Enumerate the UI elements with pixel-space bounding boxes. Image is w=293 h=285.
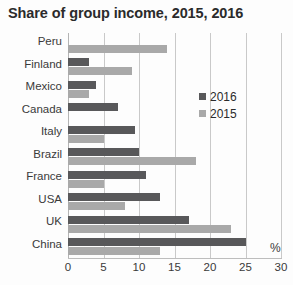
category-row: UK <box>68 213 281 236</box>
category-row: China <box>68 236 281 259</box>
bar-2016 <box>68 171 146 179</box>
x-axis-baseline <box>68 258 282 259</box>
category-label: Mexico <box>26 80 62 92</box>
category-label: USA <box>38 193 62 205</box>
legend-swatch-2015-icon <box>199 110 206 117</box>
x-tick-label: 0 <box>65 261 71 273</box>
x-tick-label: 30 <box>275 261 288 273</box>
bar-2016 <box>68 148 139 156</box>
category-label: Finland <box>24 58 62 70</box>
category-row: Italy <box>68 123 281 146</box>
category-label: Canada <box>22 103 62 115</box>
legend-label-2015: 2015 <box>210 107 237 121</box>
gridline <box>281 33 282 258</box>
x-tick-label: 25 <box>239 261 252 273</box>
category-row: Canada <box>68 101 281 124</box>
category-row: Finland <box>68 56 281 79</box>
legend-entry-2015: 2015 <box>199 105 237 122</box>
bar-2015 <box>68 225 231 233</box>
bar-2015 <box>68 202 125 210</box>
category-label: Brazil <box>33 148 62 160</box>
category-row: Mexico <box>68 78 281 101</box>
bar-2016 <box>68 126 135 134</box>
category-row: France <box>68 168 281 191</box>
plot-area: PeruFinlandMexicoCanadaItalyBrazilFrance… <box>68 33 281 258</box>
bar-2015 <box>68 135 104 143</box>
legend-label-2016: 2016 <box>210 90 237 104</box>
x-axis-tick-labels: 051015202530 <box>68 261 281 279</box>
bar-2015 <box>68 45 167 53</box>
legend-swatch-2016-icon <box>199 93 206 100</box>
bar-2016 <box>68 193 160 201</box>
bar-2016 <box>68 81 96 89</box>
x-tick-label: 5 <box>100 261 106 273</box>
legend-entry-2016: 2016 <box>199 88 237 105</box>
chart-title: Share of group income, 2015, 2016 <box>8 5 243 21</box>
x-tick-label: 15 <box>168 261 181 273</box>
bar-2015 <box>68 90 89 98</box>
category-row: Brazil <box>68 146 281 169</box>
bar-2016 <box>68 216 189 224</box>
bar-2016 <box>68 58 89 66</box>
bar-chart-figure: Share of group income, 2015, 2016 PeruFi… <box>0 0 293 285</box>
bar-2015 <box>68 247 160 255</box>
category-row: Peru <box>68 33 281 56</box>
x-axis-unit-label: % <box>270 241 281 255</box>
category-label: Peru <box>38 35 62 47</box>
category-label: China <box>32 238 62 250</box>
category-label: France <box>26 170 62 182</box>
bar-2015 <box>68 180 104 188</box>
bar-2016 <box>68 103 118 111</box>
category-label: Italy <box>41 125 62 137</box>
category-label: UK <box>46 215 62 227</box>
x-tick-label: 20 <box>204 261 217 273</box>
category-row: USA <box>68 191 281 214</box>
x-tick-label: 10 <box>133 261 146 273</box>
chart-legend: 2016 2015 <box>199 88 237 122</box>
bar-2016 <box>68 238 246 246</box>
bar-2015 <box>68 67 132 75</box>
bar-2015 <box>68 157 196 165</box>
category-rows: PeruFinlandMexicoCanadaItalyBrazilFrance… <box>68 33 281 258</box>
